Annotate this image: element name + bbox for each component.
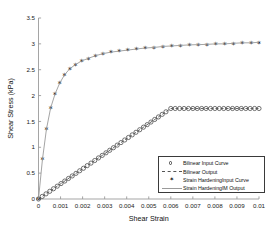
y-tick-label: 1 [32,143,36,150]
x-tick-label: 0.008 [207,202,223,209]
y-axis-title: Shear Stress (kPa) [6,78,15,139]
y-tick-label: 2.5 [26,66,35,73]
legend-label: Bilinear Input Curve [183,159,229,167]
x-tick-label: 0.006 [163,202,179,209]
legend-item-bilinear-input[interactable]: Bilinear Input Curve [159,159,264,167]
legend-label: Strain HardeningInput Curve [183,176,249,184]
open-circle-marker-icon [161,159,183,167]
x-axis-title: Shear Strain [129,214,169,223]
y-tick-label: 1.5 [26,118,35,125]
solid-line-marker-icon [161,184,183,192]
x-tick-label: 0.005 [141,202,157,209]
y-tick-label: 3.5 [26,14,35,21]
y-tick-label: 0.5 [26,169,35,176]
star-marker-icon: ✶ [161,176,183,184]
figure: 00.511.522.533.500.0010.0020.0030.0040.0… [0,0,274,237]
x-tick-label: 0.001 [53,202,69,209]
y-tick-label: 2 [32,92,36,99]
x-tick-label: 0.007 [185,202,201,209]
legend-item-bilinear-output[interactable]: Bilinear Output [159,167,264,175]
x-tick-label: 0.002 [75,202,91,209]
dashed-line-marker-icon [161,168,183,176]
chart-canvas: 00.511.522.533.500.0010.0020.0030.0040.0… [0,0,274,237]
x-tick-label: 0.004 [119,202,135,209]
chart-legend[interactable]: Bilinear Input Curve Bilinear Output ✶ S… [158,156,265,193]
legend-item-strain-hardening-output[interactable]: Strain HardeningIM Output [159,184,264,192]
legend-item-strain-hardening-input[interactable]: ✶ Strain HardeningInput Curve [159,176,264,184]
legend-label: Bilinear Output [183,168,217,176]
y-tick-label: 3 [32,40,36,47]
legend-label: Strain HardeningIM Output [183,184,245,192]
x-tick-label: 0 [37,202,41,209]
x-tick-label: 0.003 [97,202,113,209]
x-tick-label: 0.01 [253,202,266,209]
x-tick-label: 0.009 [229,202,245,209]
x-axis-ticks: 00.0010.0020.0030.0040.0050.0060.0070.00… [37,196,266,209]
